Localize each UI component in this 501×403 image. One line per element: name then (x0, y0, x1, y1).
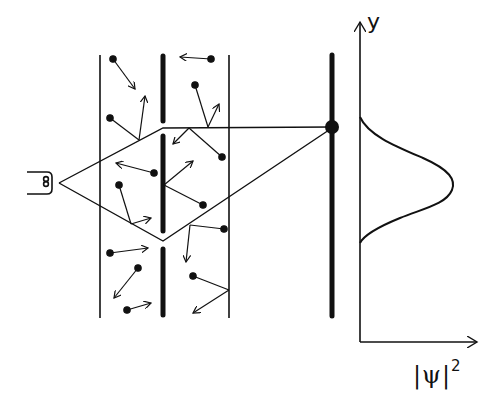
x-axis-label: |ψ|2 (413, 361, 462, 389)
detection-hit-dot (325, 120, 339, 134)
psi-magnitude-label: |ψ| (413, 361, 451, 389)
source-coil-icon (27, 172, 52, 194)
double-slit-diagram (0, 0, 501, 403)
gas-particles (107, 56, 229, 313)
probability-distribution-curve (360, 117, 453, 243)
y-axis-label: y (367, 9, 380, 34)
exponent-label: 2 (451, 357, 462, 375)
